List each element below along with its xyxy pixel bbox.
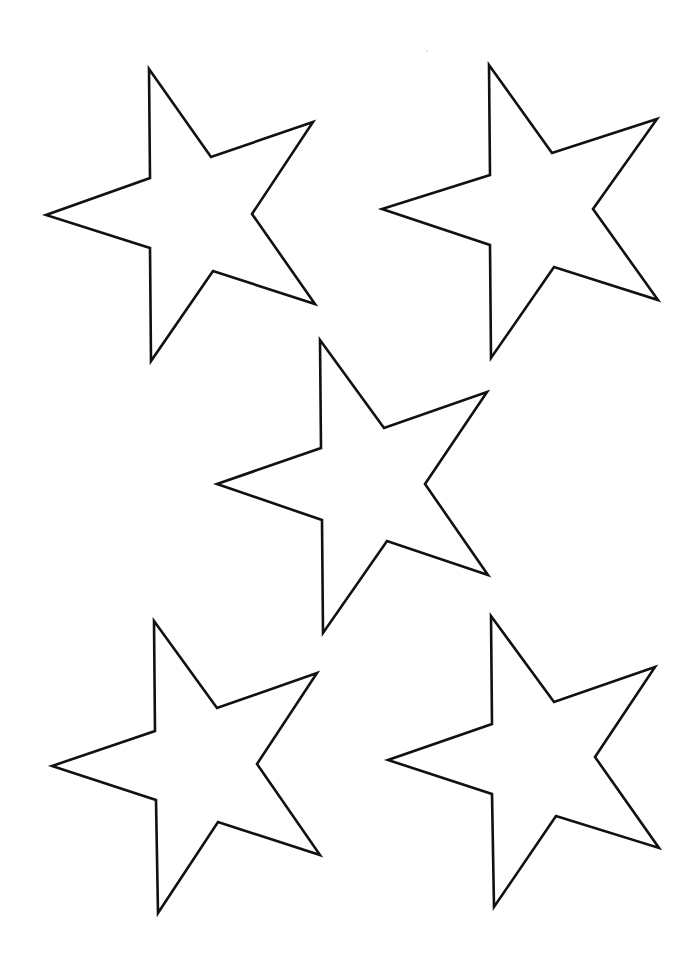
star-top-left-icon (46, 69, 315, 361)
page-canvas: Five star outlines template (0, 0, 676, 975)
speck-mark (426, 50, 428, 52)
star-bottom-left-icon (52, 621, 320, 913)
star-top-right-icon (382, 65, 658, 358)
star-center-icon (217, 340, 488, 633)
star-bottom-right-icon (388, 616, 659, 907)
stars-drawing (0, 0, 676, 975)
